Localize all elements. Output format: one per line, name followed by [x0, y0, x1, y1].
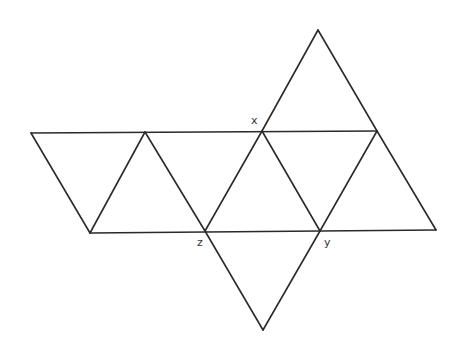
vertex-label-z: z [197, 236, 203, 249]
edge-c-b [90, 132, 145, 233]
edge-z-e [205, 231, 263, 330]
edge-a-c [31, 133, 90, 233]
edge-e-y [263, 231, 320, 330]
edge-x-t [262, 30, 318, 131]
edge-b-z [145, 132, 205, 231]
edge-z-x [205, 131, 262, 231]
top-horizontal-edge [31, 131, 377, 133]
edge-r-d [377, 131, 436, 230]
vertex-label-y: y [324, 236, 331, 249]
edge-y-r [320, 131, 377, 231]
octahedron-net-diagram: x z y [0, 0, 457, 342]
vertex-label-x: x [251, 114, 258, 127]
edge-t-r [318, 30, 377, 131]
bottom-horizontal-edge [90, 230, 436, 233]
edge-x-y [262, 131, 320, 231]
